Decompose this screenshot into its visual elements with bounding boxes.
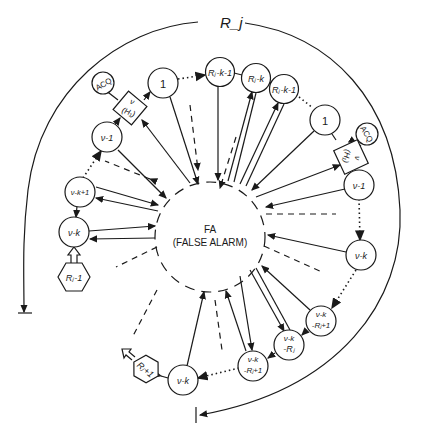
svg-text:Rⱼ-k-1: Rⱼ-k-1 — [272, 85, 296, 95]
node-nu-k-rj: ν-k -Rⱼ — [274, 330, 304, 360]
svg-text:1: 1 — [322, 115, 328, 127]
node-nu-1-left: ν-1 — [92, 122, 122, 152]
outer-arc-label: R_j — [220, 14, 243, 31]
false-alarm-label: FA — [204, 224, 217, 235]
node-one-right: 1 — [310, 105, 340, 135]
node-nu-k-bottom: ν-k — [168, 365, 198, 395]
svg-text:-Rⱼ+1: -Rⱼ+1 — [312, 321, 331, 330]
node-rj-minus1-hexagon: Rⱼ-1 — [58, 263, 90, 291]
node-nu-k-rj-plus1-bottom: ν-k -Rⱼ+1 — [238, 351, 268, 381]
svg-text:ν-1: ν-1 — [353, 181, 366, 191]
svg-text:Rⱼ-k-1: Rⱼ-k-1 — [208, 68, 232, 78]
false-alarm-sublabel: (FALSE ALARM) — [173, 237, 247, 248]
state-diagram: R_j FA (FALSE ALARM) — [0, 0, 423, 448]
svg-text:-Rⱼ: -Rⱼ — [283, 344, 295, 354]
svg-text:1: 1 — [160, 78, 166, 90]
node-acq-right: ACQ — [356, 123, 378, 145]
node-one-left: 1 — [148, 68, 178, 98]
svg-text:ν-k: ν-k — [248, 355, 260, 364]
svg-text:ν-k: ν-k — [177, 376, 189, 386]
node-rj-k-1-right: Rⱼ-k-1 — [270, 75, 299, 104]
node-nu-1-right: ν-1 — [344, 170, 374, 200]
node-nu-k-left: ν-k — [59, 217, 89, 247]
svg-text:ν-k: ν-k — [355, 251, 367, 261]
svg-text:ν-k+1: ν-k+1 — [71, 188, 90, 197]
diagram-canvas: R_j FA (FALSE ALARM) — [0, 0, 423, 448]
node-acq-left: ACQ — [92, 72, 114, 94]
svg-text:ν-1: ν-1 — [101, 133, 114, 143]
node-rj-k: Rⱼ-k — [242, 64, 271, 93]
svg-text:Rⱼ-1: Rⱼ-1 — [66, 273, 83, 283]
node-nu-k-plus1-left: ν-k+1 — [65, 177, 95, 207]
node-nu-k-right: ν-k — [346, 240, 376, 270]
svg-text:-Rⱼ+1: -Rⱼ+1 — [244, 366, 263, 375]
svg-text:Rⱼ-k: Rⱼ-k — [248, 74, 264, 84]
svg-text:ν-k: ν-k — [316, 310, 328, 319]
svg-text:ν-k: ν-k — [68, 228, 80, 238]
node-nu-k-rj-plus1-right: ν-k -Rⱼ+1 — [306, 306, 336, 336]
node-rj-k-1-top: Rⱼ-k-1 — [206, 58, 235, 87]
node-rj-plus1-hexagon: Rⱼ+1 — [128, 352, 164, 387]
svg-text:ν-k: ν-k — [284, 334, 296, 343]
